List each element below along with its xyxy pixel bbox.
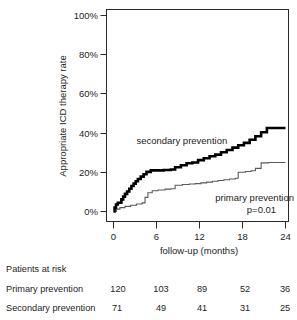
kaplan-meier-figure: 100% 80% 60% 40% 20% 0% Appropriate ICD … bbox=[0, 0, 297, 320]
y-axis-tick-labels: 100% 80% 60% 40% 20% 0% bbox=[74, 10, 99, 217]
patients-at-risk-table: Patients at risk Primary prevention 120 … bbox=[6, 264, 290, 313]
risk-row-label-secondary: Secondary prevention bbox=[6, 303, 95, 313]
plot-frame bbox=[107, 10, 289, 222]
risk-row-label-primary: Primary prevention bbox=[6, 284, 83, 294]
y-tick-label: 0% bbox=[84, 206, 98, 217]
annotation-p-value: p=0.01 bbox=[247, 204, 276, 215]
risk-value: 36 bbox=[280, 284, 290, 294]
y-axis-ticks bbox=[101, 16, 107, 212]
x-axis-title: follow-up (months) bbox=[160, 245, 238, 256]
annotation-primary-prevention: primary prevention bbox=[215, 192, 294, 203]
y-tick-label: 80% bbox=[79, 49, 99, 60]
km-chart-svg: 100% 80% 60% 40% 20% 0% Appropriate ICD … bbox=[0, 0, 297, 320]
risk-value: 52 bbox=[240, 284, 250, 294]
risk-value: 71 bbox=[112, 303, 122, 313]
risk-value: 89 bbox=[197, 284, 207, 294]
x-axis-ticks bbox=[114, 222, 286, 229]
x-tick-label: 0 bbox=[111, 231, 116, 242]
y-tick-label: 40% bbox=[79, 128, 99, 139]
x-axis-tick-labels: 0 6 12 18 24 bbox=[111, 231, 291, 242]
y-tick-label: 60% bbox=[79, 88, 99, 99]
y-axis-title-group: Appropriate ICD therapy rate bbox=[57, 55, 68, 176]
x-tick-label: 24 bbox=[280, 231, 291, 242]
risk-value: 49 bbox=[156, 303, 166, 313]
x-tick-label: 18 bbox=[237, 231, 248, 242]
x-tick-label: 12 bbox=[194, 231, 205, 242]
annotation-secondary-prevention: secondary prevention bbox=[136, 135, 227, 146]
risk-value: 120 bbox=[110, 284, 125, 294]
risk-value: 41 bbox=[197, 303, 207, 313]
risk-table-title: Patients at risk bbox=[6, 264, 67, 274]
risk-value: 103 bbox=[153, 284, 168, 294]
y-tick-label: 100% bbox=[74, 10, 99, 21]
x-tick-label: 6 bbox=[154, 231, 159, 242]
risk-value: 25 bbox=[280, 303, 290, 313]
y-tick-label: 20% bbox=[79, 167, 99, 178]
risk-value: 31 bbox=[240, 303, 250, 313]
y-axis-title: Appropriate ICD therapy rate bbox=[57, 55, 68, 176]
